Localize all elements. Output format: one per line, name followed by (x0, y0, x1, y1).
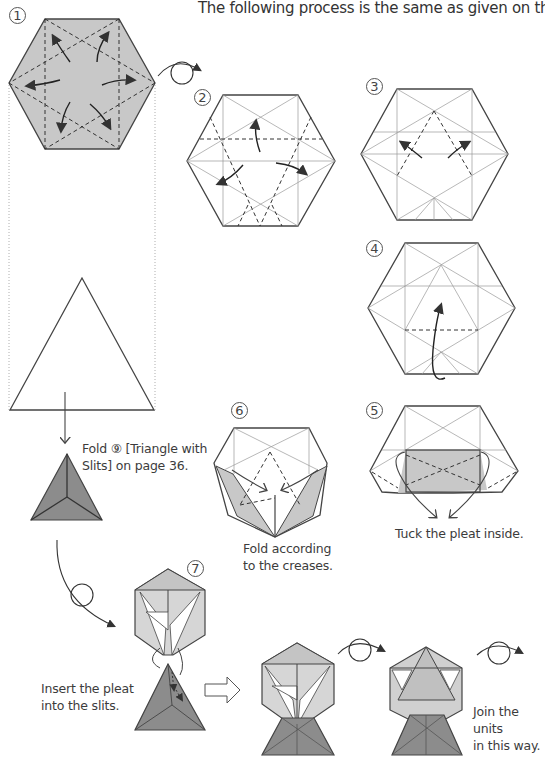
caption-join-units: Join the units in this way. (473, 703, 545, 754)
turn-over-arrow-icon (57, 540, 114, 626)
step-1-hexagon-diagram (9, 19, 155, 149)
assembled-unit-back (390, 647, 462, 755)
origami-diagram-canvas: Tuck the pleat inside. (0, 0, 545, 757)
step-5-folded-diagram (370, 406, 518, 517)
caption-insert-pleat: Insert the pleat into the slits. (41, 680, 134, 714)
caption-line: to the creases. (243, 557, 333, 574)
turn-over-arrow-icon (338, 639, 384, 661)
caption-tuck-pleat: Tuck the pleat inside. (394, 526, 523, 541)
caption-line: in this way. (473, 737, 545, 754)
step-4-hexagon-diagram (368, 243, 515, 379)
step-7-assembly-diagram (135, 569, 205, 730)
next-arrow-icon (205, 677, 240, 703)
caption-line: Fold according (243, 540, 333, 557)
caption-line: Slits] on page 36. (82, 457, 207, 474)
caption-fold-creases: Fold according to the creases. (243, 540, 333, 574)
step-3-hexagon-diagram (361, 89, 508, 220)
turn-over-arrow-icon (477, 642, 522, 664)
triangle-paper-diagram (10, 278, 154, 442)
caption-fold-triangle: Fold ⑨ [Triangle with Slits] on page 36. (82, 440, 207, 474)
caption-line: into the slits. (41, 697, 134, 714)
caption-line: Fold ⑨ [Triangle with (82, 440, 207, 457)
caption-line: Join the units (473, 703, 545, 737)
turn-over-arrow-icon (158, 62, 200, 84)
assembled-unit-front (262, 643, 334, 755)
caption-line: Insert the pleat (41, 680, 134, 697)
step-6-folded-diagram (214, 428, 327, 537)
step-2-hexagon-diagram (187, 95, 335, 226)
